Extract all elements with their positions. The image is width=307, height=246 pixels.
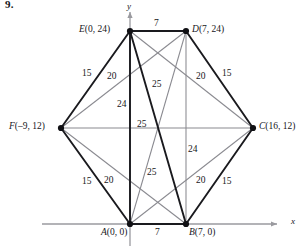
edge-length-FD: 20: [107, 72, 117, 82]
edge-FD: [61, 31, 186, 128]
figure-page: 9.: [0, 0, 307, 246]
x-axis-label: x: [291, 217, 295, 226]
vertex-label-D: D(7, 24): [192, 25, 224, 35]
edge-length-BC: 15: [222, 177, 232, 187]
light-edges: [61, 31, 253, 224]
vertex-label-B: B(7, 0): [189, 228, 215, 238]
edge-length-EF: 15: [82, 69, 92, 79]
edge-length-FC: 25: [137, 120, 147, 130]
edge-length-EA: 24: [117, 100, 127, 110]
edge-length-DB: 24: [188, 145, 198, 155]
edge-length-DC: 15: [222, 69, 232, 79]
edge-length-DA: 25: [147, 168, 157, 178]
y-axis-arrow: [127, 12, 132, 18]
vertex-dot-C: [250, 125, 256, 131]
edge-FA: [61, 128, 130, 224]
axis-group: [42, 12, 277, 246]
edge-EF: [61, 31, 130, 128]
edge-length-EC: 20: [196, 72, 206, 82]
vertex-dot-D: [183, 28, 189, 34]
vertex-label-A: A(0, 0): [101, 228, 127, 238]
edge-length-AC: 20: [196, 176, 206, 186]
edge-EC: [130, 31, 253, 128]
x-axis-arrow: [271, 221, 277, 226]
vertex-label-E: E(0, 24): [79, 25, 110, 35]
vertex-dot-A: [127, 221, 133, 227]
vertex-label-F: F(–9, 12): [9, 122, 45, 132]
edge-FB: [61, 128, 186, 224]
edge-length-EB: 25: [152, 80, 162, 90]
edge-length-ED: 7: [154, 19, 159, 29]
edge-length-FB: 20: [104, 176, 114, 186]
vertex-label-C: C(16, 12): [259, 122, 295, 132]
edge-length-FA: 15: [82, 177, 92, 187]
vertex-dot-E: [127, 28, 133, 34]
vertex-dot-F: [58, 125, 64, 131]
y-axis-label: y: [127, 2, 131, 11]
edge-length-AB: 7: [155, 228, 160, 238]
